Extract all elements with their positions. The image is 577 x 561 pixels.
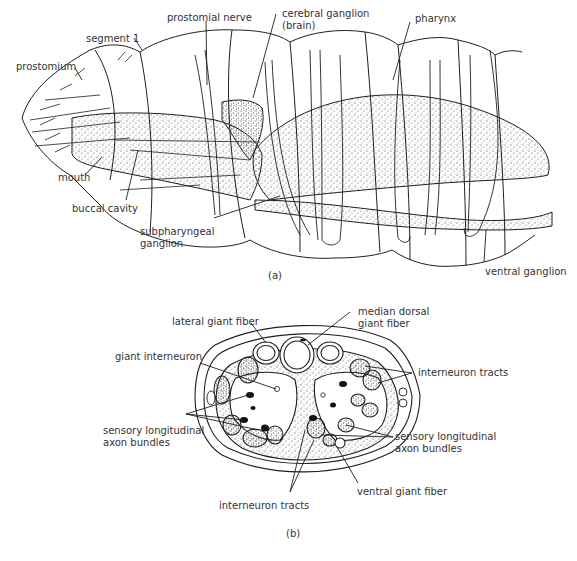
caption-b: (b) xyxy=(286,528,300,539)
label-median-dorsal-giant-fiber: giant fiber xyxy=(358,318,410,329)
label-cerebral-ganglion: cerebral ganglion xyxy=(282,8,369,19)
label-pharynx: pharynx xyxy=(415,13,456,24)
ventral-giant-fiber xyxy=(335,438,345,448)
label-segment-1: segment 1 xyxy=(86,33,139,44)
label-sensory-longitudinal-left: sensory longitudinal xyxy=(103,425,204,436)
worm-anterior-lateral-view xyxy=(22,30,552,267)
label-giant-interneuron: giant interneuron xyxy=(115,351,202,362)
label-prostomial-nerve: prostomial nerve xyxy=(167,12,252,23)
label-ventral-giant-fiber: ventral giant fiber xyxy=(357,486,447,497)
label-cerebral-ganglion-brain: (brain) xyxy=(282,20,316,31)
label-axon-bundles-right: axon bundles xyxy=(395,443,462,454)
label-buccal-cavity: buccal cavity xyxy=(72,203,138,214)
label-axon-bundles-left: axon bundles xyxy=(103,437,170,448)
label-ventral-ganglion: ventral ganglion xyxy=(485,266,567,277)
label-median-dorsal: median dorsal xyxy=(358,306,429,317)
caption-a: (a) xyxy=(268,270,282,281)
nerve-cord-cross-section xyxy=(195,325,420,471)
label-sensory-longitudinal-right: sensory longitudinal xyxy=(395,431,496,442)
label-subpharyngeal-ganglion: subpharyngeal xyxy=(140,226,214,237)
label-subpharyngeal-ganglion-2: ganglion xyxy=(140,238,183,249)
earthworm-nervous-system-diagram xyxy=(0,0,577,561)
label-prostomium: prostomium xyxy=(16,61,76,72)
label-interneuron-tracts-bottom: interneuron tracts xyxy=(219,500,309,511)
label-interneuron-tracts-right: interneuron tracts xyxy=(418,367,508,378)
label-mouth: mouth xyxy=(58,172,90,183)
label-lateral-giant-fiber: lateral giant fiber xyxy=(172,316,259,327)
